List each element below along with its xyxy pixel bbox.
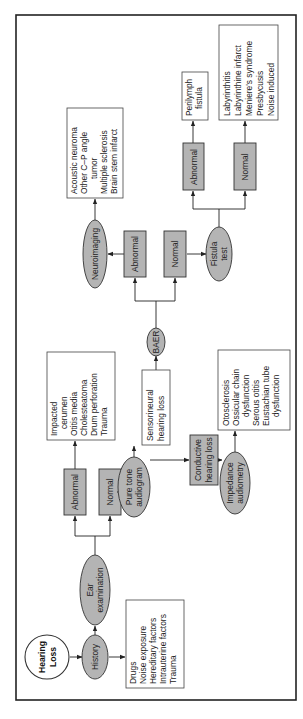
cause-ossicular-dysfunction: dysfunction (241, 374, 251, 417)
sensorineural-label-line1: Sensorineural (145, 389, 155, 441)
ear-exam-label-line2: examination (95, 567, 105, 613)
baer-abnormal-box: Abnormal (124, 231, 146, 277)
conductive-label-line2: hearing loss (204, 437, 214, 482)
cause-tumor: tumor (89, 157, 99, 179)
cause-acoustic-neuroma: Acoustic neuroma (69, 127, 79, 194)
cause-impacted: Impacted (49, 401, 59, 436)
pure-tone-audiogram-node: Pure tone audiogram (117, 457, 150, 517)
ear-abnormal-causes-box: Impacted cerumen Otitis media Cholesteat… (47, 352, 115, 440)
cause-labyrinthine-infarct: Labyrinthine infarct (233, 45, 243, 116)
cause-brain-stem-infarct: Brain stem infarct (109, 128, 119, 194)
cause-ossicular-chain: Ossicular chain (231, 368, 241, 426)
history-factors-box: Drugs Noise exposure Hereditary factors … (126, 600, 184, 688)
factor-hereditary: Hereditary factors (148, 618, 158, 684)
neuroimaging-causes-box: Acoustic neuroma Other C–P angle tumor M… (67, 108, 123, 198)
ear-exam-abnormal-box: Abnormal (64, 469, 86, 515)
fistula-label-line2: test (219, 247, 229, 261)
cause-cerumen: cerumen (59, 396, 69, 429)
pure-tone-label-line1: Pure tone (124, 469, 134, 506)
hearing-loss-label-line2: Loss (48, 647, 58, 667)
ear-examination-node: Ear examination (80, 555, 110, 625)
hearing-loss-label-line1: Hearing (37, 641, 47, 673)
fistula-test-node: Fistula test (206, 227, 232, 281)
conductive-causes-box: Otosclerosis Ossicular chain dysfunction… (218, 350, 290, 430)
cause-otosclerosis: Otosclerosis (221, 380, 231, 426)
cause-multiple-sclerosis: Multiple sclerosis (99, 130, 109, 194)
factor-intrauterine: Intrauterine factors (158, 614, 168, 684)
baer-normal-box: Normal (164, 231, 186, 277)
baer-label: BAER (151, 331, 161, 354)
cause-cp-angle: Other C–P angle (79, 131, 89, 194)
fistula-normal-label: Normal (240, 153, 250, 180)
pure-tone-label-line2: audiogram (134, 467, 144, 507)
impedance-label-line2: audiometry (235, 461, 245, 503)
factor-drugs: Drugs (128, 662, 138, 684)
fistula-abnormal-box: Abnormal (183, 143, 204, 190)
cause-menieres: Meniere's syndrome (244, 41, 254, 116)
conductive-box: Conductive hearing loss (190, 435, 218, 485)
flowchart-stage: Hearing Loss History Drugs Noise exposur… (0, 0, 303, 719)
fistula-abnormal-label: Abnormal (189, 149, 199, 185)
neuroimaging-label: Neuroimaging (90, 228, 100, 280)
factor-noise-exposure: Noise exposure (138, 625, 148, 684)
cause-presbycusis: Presbycusis (255, 71, 265, 116)
fistula-label-line1: Fistula (209, 241, 219, 266)
baer-abnormal-label: Abnormal (130, 236, 140, 272)
sensorineural-box: Sensorineural hearing loss (142, 370, 170, 445)
impedance-audiometry-node: Impedance audiometry (220, 452, 250, 514)
baer-node: BAER (147, 328, 165, 356)
cause-drum-perforation: Drum perforation (89, 373, 99, 436)
hearing-loss-flowchart: Hearing Loss History Drugs Noise exposur… (0, 0, 303, 719)
cause-labyrinthitis: Labyrinthitis (222, 71, 232, 116)
cause-trauma: Trauma (99, 407, 109, 436)
history-node: History (82, 635, 108, 679)
hearing-loss-node: Hearing Loss (25, 635, 69, 679)
neuroimaging-node: Neuroimaging (83, 220, 107, 288)
ear-exam-normal-label: Normal (105, 478, 115, 505)
cause-eustachian-dysfunction: dysfunction (271, 374, 281, 417)
cause-cholesteatoma: Cholesteatoma (79, 379, 89, 436)
cause-eustachian-tube: Eustachian tube (261, 366, 271, 426)
ear-exam-label-line1: Ear (85, 583, 95, 596)
baer-normal-label: Normal (170, 240, 180, 267)
sensorineural-label-line2: hearing loss (156, 396, 166, 441)
perilymph-label-line2: fistula (194, 87, 204, 109)
factor-trauma: Trauma (168, 655, 178, 684)
perilymph-fistula-box: Perilymph fistula (182, 72, 208, 120)
history-label: History (90, 643, 100, 670)
cause-serous-otitis: Serous otitis (251, 380, 261, 426)
perilymph-label-line1: Perilymph (184, 78, 194, 116)
impedance-label-line1: Impedance (225, 462, 235, 504)
ear-exam-abnormal-label: Abnormal (70, 474, 80, 510)
conductive-label-line1: Conductive (193, 439, 203, 481)
fistula-normal-box: Normal (234, 143, 256, 190)
fistula-normal-causes-box: Labyrinthitis Labyrinthine infarct Menie… (219, 25, 278, 120)
cause-noise-induced: Noise induced (266, 63, 276, 116)
cause-otitis-media: Otitis media (69, 391, 79, 436)
